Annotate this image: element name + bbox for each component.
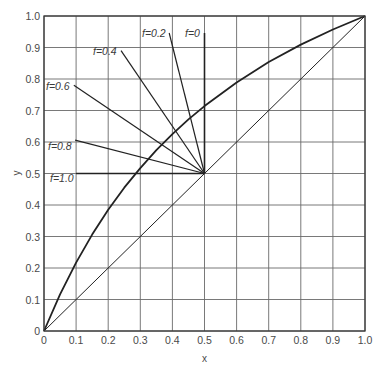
f-label-02: f=0.2 [142,27,166,39]
x-tick-label: 0.2 [101,334,116,346]
x-tick-label: 0.5 [197,334,212,346]
q-line [74,85,205,173]
y-tick-label: 0.8 [25,73,40,85]
x-tick-label: 0.3 [133,334,148,346]
y-tick-label: 0.3 [25,231,40,243]
x-axis-label: x [202,353,207,364]
x-tick-label: 1.0 [358,334,373,346]
y-tick-label: 0.5 [25,168,40,180]
y-tick-label: 0.1 [25,294,40,306]
y-tick-label: 0 [34,325,40,337]
y-tick-label: 0.6 [25,136,40,148]
y-tick-label: 1.0 [25,10,40,22]
x-tick-label: 0.1 [69,334,84,346]
y-tick-label: 0.9 [25,42,40,54]
x-tick-label: 0.4 [165,334,180,346]
y-tick-label: 0.7 [25,105,40,117]
x-tick-label: 0 [41,334,47,346]
f-label-10: f=1.0 [50,172,74,184]
x-tick-label: 0.7 [261,334,276,346]
x-tick-label: 0.9 [326,334,341,346]
y-axis-label: y [11,171,22,176]
x-tick-label: 0.6 [229,334,244,346]
y-tick-label: 0.4 [25,199,40,211]
f-label-04: f=0.4 [93,45,117,57]
chart: 0 0.1 0.2 0.3 0.4 0.5 0.6 0.7 0.8 0.9 1.… [0,0,382,374]
y-tick-labels: 0 0.1 0.2 0.3 0.4 0.5 0.6 0.7 0.8 0.9 1.… [25,10,40,337]
x-tick-labels: 0 0.1 0.2 0.3 0.4 0.5 0.6 0.7 0.8 0.9 1.… [41,334,372,346]
q-line [169,33,204,173]
y-tick-label: 0.2 [25,262,40,274]
f-label-06: f=0.6 [46,80,70,92]
x-tick-label: 0.8 [293,334,308,346]
f-label-08: f=0.8 [48,140,72,152]
f-label-0: f=0 [185,27,200,39]
f-labels: f=0 f=0.2 f=0.4 f=0.6 f=0.8 f=1.0 [46,27,200,184]
